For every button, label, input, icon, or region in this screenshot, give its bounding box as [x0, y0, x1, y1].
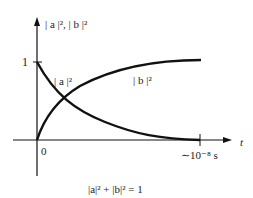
y-tick-label-one: 1: [22, 55, 28, 69]
origin-label: 0: [41, 145, 47, 157]
y-axis: [34, 17, 40, 176]
x-axis-label: t: [240, 136, 244, 148]
probability-diagram: | a |², | b |² 1 | a |² | b |² 0 t ∼10⁻⁸…: [0, 0, 253, 198]
x-tick-label-time: ∼10⁻⁸ s: [181, 149, 218, 161]
y-axis-arrow-icon: [34, 17, 40, 26]
y-axis-label: | a |², | b |²: [45, 18, 88, 30]
b-curve-label: | b |²: [133, 74, 152, 86]
normalization-equation: |a|² + |b|² = 1: [88, 183, 143, 195]
a-curve-label: | a |²: [54, 75, 73, 87]
x-axis-arrow-icon: [223, 137, 232, 143]
